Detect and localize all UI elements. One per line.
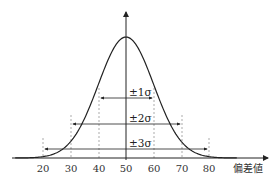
svg-text:80: 80 <box>203 163 216 174</box>
label-2sigma: ±2σ <box>129 112 152 124</box>
x-tick-labels: 20 30 40 50 60 70 80 <box>37 163 216 174</box>
svg-text:40: 40 <box>93 163 106 174</box>
svg-text:70: 70 <box>176 163 189 174</box>
x-axis-label: 偏差値 <box>233 162 263 174</box>
normal-distribution-chart: ±1σ ±2σ ±3σ 20 30 40 50 60 70 80 偏差値 <box>0 0 278 188</box>
svg-text:20: 20 <box>37 163 50 174</box>
label-1sigma: ±1σ <box>129 86 152 98</box>
label-3sigma: ±3σ <box>129 137 152 149</box>
svg-text:50: 50 <box>120 163 133 174</box>
svg-text:30: 30 <box>65 163 78 174</box>
svg-text:60: 60 <box>148 163 161 174</box>
